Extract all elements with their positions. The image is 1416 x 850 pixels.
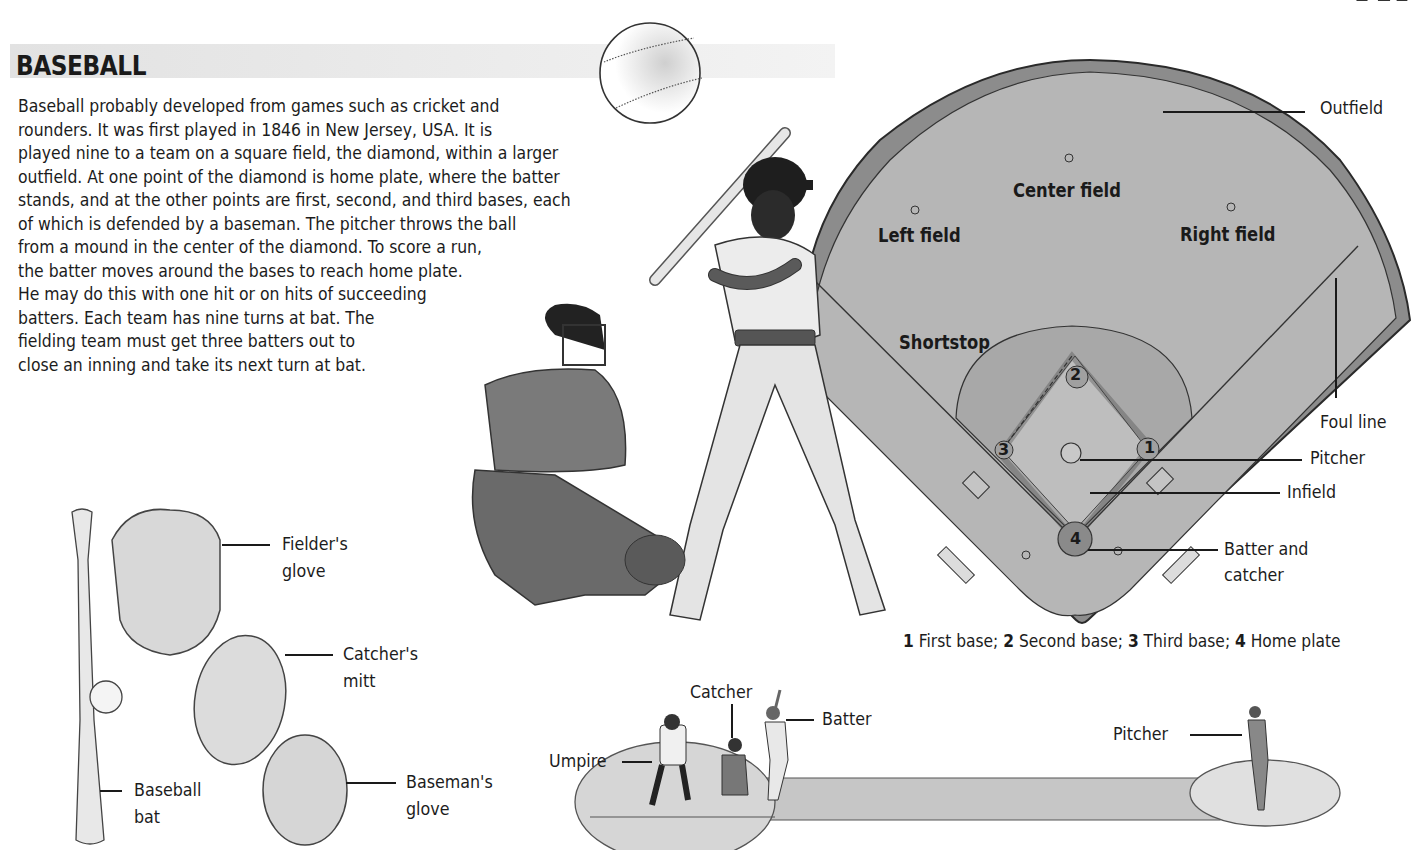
callout-outfield: Outfield — [1320, 94, 1383, 121]
batter-leader-line — [786, 719, 814, 721]
base-number-4: 4 — [1070, 529, 1081, 548]
legend-num: 3 — [1128, 630, 1139, 651]
legend-num: 1 — [903, 630, 914, 651]
baseball-bat-leader-line — [100, 790, 122, 792]
label-baseball-bat-line2: bat — [134, 803, 160, 830]
catchers-mitt-leader-line — [285, 654, 333, 656]
pitch-label-umpire: Umpire — [549, 747, 607, 774]
label-center-field: Center field — [1013, 177, 1121, 204]
pitcher-leader-line — [1080, 459, 1302, 461]
batter-catcher-leader-line — [1088, 549, 1218, 551]
label-catchers-mitt-line1: Catcher's — [343, 640, 418, 667]
infield-leader-line — [1090, 492, 1280, 494]
label-baseball-bat-line1: Baseball — [134, 776, 201, 803]
callout-infield: Infield — [1287, 478, 1336, 505]
pitch-label-batter: Batter — [822, 705, 871, 732]
callout-batter-and-catcher-line2: catcher — [1224, 561, 1284, 588]
base-legend-caption: 1 First base; 2 Second base; 3 Third bas… — [903, 627, 1341, 654]
callout-batter-and-catcher-line1: Batter and — [1224, 535, 1308, 562]
batter-and-catcher-illustration — [455, 125, 895, 630]
legend-num: 4 — [1235, 630, 1246, 651]
base-number-2: 2 — [1070, 365, 1081, 384]
basemans-glove-leader-line — [346, 782, 396, 784]
label-right-field: Right field — [1180, 221, 1276, 248]
legend-text: Second base; — [1014, 630, 1128, 651]
pitch-diagram — [530, 670, 1416, 850]
outfield-leader-line — [1163, 111, 1305, 113]
pitch-label-pitcher: Pitcher — [1113, 720, 1168, 747]
base-number-3: 3 — [998, 440, 1009, 459]
legend-text: Home plate — [1246, 630, 1341, 651]
legend-num: 2 — [1003, 630, 1014, 651]
base-number-1: 1 — [1144, 438, 1155, 457]
label-shortstop: Shortstop — [899, 329, 990, 356]
callout-pitcher: Pitcher — [1310, 444, 1365, 471]
fielders-glove-leader-line — [222, 544, 270, 546]
legend-text: First base; — [914, 630, 1003, 651]
umpire-leader-line — [622, 761, 652, 763]
foul-line-leader-line — [1335, 278, 1337, 398]
pitch-label-catcher: Catcher — [690, 678, 752, 705]
legend-text: Third base; — [1139, 630, 1235, 651]
label-fielders-glove-line1: Fielder's — [282, 530, 348, 557]
label-basemans-glove-line2: glove — [406, 795, 449, 822]
label-catchers-mitt-line2: mitt — [343, 667, 375, 694]
label-fielders-glove-line2: glove — [282, 557, 325, 584]
catcher-leader-line — [731, 704, 733, 738]
label-basemans-glove-line1: Baseman's — [406, 768, 493, 795]
pitcher-leader-line-bottom — [1190, 734, 1242, 736]
callout-foul-line: Foul line — [1320, 408, 1387, 435]
